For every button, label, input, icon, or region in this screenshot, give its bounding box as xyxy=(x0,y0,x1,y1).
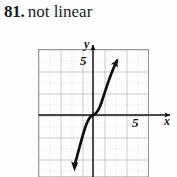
y-axis-label: y xyxy=(84,38,89,50)
y-axis-tick-label-5: 5 xyxy=(80,54,87,67)
x-axis-label: x xyxy=(164,115,170,127)
coordinate-plane-svg xyxy=(0,0,177,177)
x-axis-tick-label-5: 5 xyxy=(132,116,139,129)
graph-figure: 5 5 y x xyxy=(0,0,177,177)
answer-key-figure: 81.not linear xyxy=(0,0,177,177)
